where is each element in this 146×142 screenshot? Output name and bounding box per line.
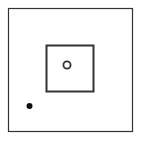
inner-square — [47, 46, 94, 92]
hollow-circle — [63, 61, 70, 68]
filled-dot — [27, 103, 33, 109]
diagram-canvas — [0, 0, 146, 142]
outer-square — [9, 9, 133, 132]
